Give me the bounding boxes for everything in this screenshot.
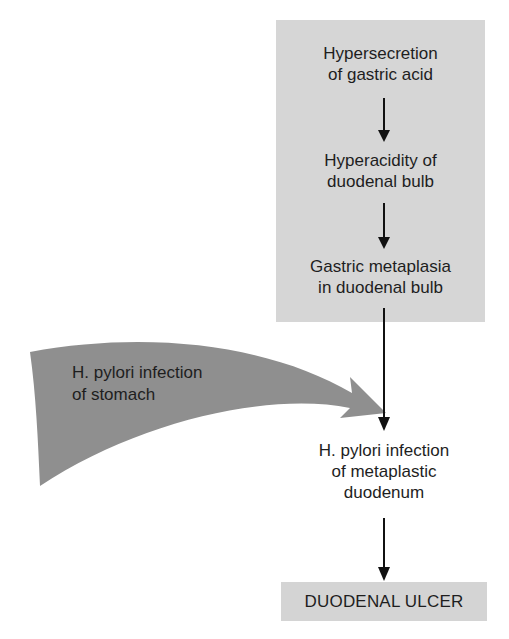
node-duodenum-infection: H. pylori infection of metaplastic duode… bbox=[284, 440, 484, 503]
node-stomach-infection: H. pylori infection of stomach bbox=[72, 362, 272, 406]
arrow-head-4 bbox=[378, 567, 390, 581]
arrow-head-3 bbox=[378, 417, 390, 431]
node-hyperacidity: Hyperacidity of duodenal bulb bbox=[276, 150, 485, 192]
node-hypersecretion: Hypersecretion of gastric acid bbox=[276, 43, 485, 85]
node-gastric-metaplasia: Gastric metaplasia in duodenal bulb bbox=[276, 256, 485, 298]
node-duodenal-ulcer: DUODENAL ULCER bbox=[281, 582, 487, 621]
